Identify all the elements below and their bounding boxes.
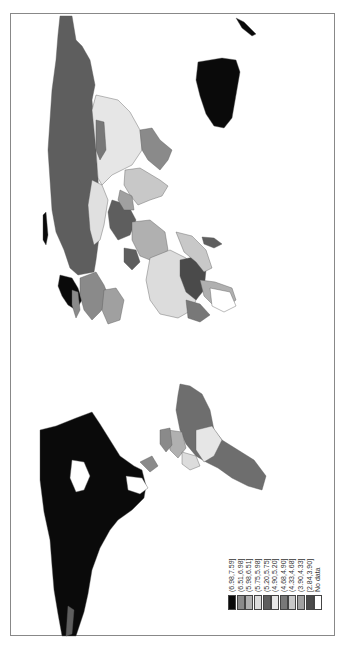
legend-swatch (237, 595, 245, 610)
legend-label: (6.98,7.59] (228, 559, 236, 592)
region-north-america[interactable] (40, 412, 146, 636)
legend-label: (4.33,4.68] (288, 559, 296, 592)
legend-swatch (306, 595, 314, 610)
legend-item: (3.90,4.33] (297, 518, 306, 610)
legend-item: (6.51,6.98] (237, 518, 246, 610)
legend-item: (5.20,5.75] (262, 518, 271, 610)
legend-label: No data (314, 567, 322, 592)
region-madagascar[interactable] (202, 237, 222, 248)
legend-label: (5.75,5.98] (254, 559, 262, 592)
legend-item: (6.98,7.59] (228, 518, 237, 610)
legend-swatch (263, 595, 271, 610)
legend-label: (4.90,5.20] (271, 559, 279, 592)
legend-label: (3.90,4.33] (297, 559, 305, 592)
legend-swatch (228, 595, 236, 610)
legend-item: (4.33,4.68] (288, 518, 297, 610)
legend-item: (4.90,5.20] (271, 518, 280, 610)
legend-item: No data (314, 518, 323, 610)
legend-label: (4.68,4.90] (280, 559, 288, 592)
region-central-america[interactable] (140, 456, 158, 472)
legend-swatch (297, 595, 305, 610)
region-western-europe[interactable] (102, 288, 124, 324)
legend-item: [2.84,3.90] (305, 518, 314, 610)
legend-label: (5.98,6.51] (245, 559, 253, 592)
region-brazil[interactable] (176, 384, 266, 490)
legend-item: (5.98,6.51] (245, 518, 254, 610)
legend-label: [2.84,3.90] (306, 559, 314, 592)
region-australia[interactable] (196, 58, 240, 128)
legend-item: (5.75,5.98] (254, 518, 263, 610)
legend-swatch (254, 595, 262, 610)
legend-swatch (280, 595, 288, 610)
legend-label: (6.51,6.98] (237, 559, 245, 592)
legend-swatch (271, 595, 279, 610)
region-japan[interactable] (43, 212, 48, 245)
region-new-zealand[interactable] (236, 18, 256, 36)
map-legend: (6.98,7.59] (6.51,6.98] (5.98,6.51] (5.7… (228, 518, 328, 610)
legend-swatch (245, 595, 253, 610)
legend-rotated: (6.98,7.59] (6.51,6.98] (5.98,6.51] (5.7… (228, 518, 323, 610)
legend-item: (4.68,4.90] (280, 518, 289, 610)
legend-label: (5.20,5.75] (263, 559, 271, 592)
legend-swatch (314, 595, 322, 610)
region-west-africa[interactable] (186, 300, 210, 322)
legend-swatch (288, 595, 296, 610)
region-southeast-asia[interactable] (140, 128, 172, 170)
